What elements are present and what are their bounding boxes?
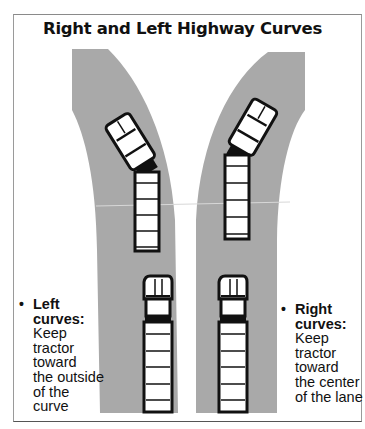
right-straight-truck xyxy=(219,276,247,412)
caption-heading: curves: xyxy=(295,317,365,332)
right-curves-caption: • Right curves: Keep tractor toward the … xyxy=(295,302,365,404)
caption-line: the center xyxy=(295,375,365,390)
caption-line: of the lane xyxy=(295,390,365,405)
caption-line: the outside xyxy=(33,370,113,385)
bullet-icon: • xyxy=(281,302,286,317)
caption-heading: curves: xyxy=(33,312,113,327)
caption-line: tractor xyxy=(295,346,365,361)
bullet-icon: • xyxy=(19,297,24,312)
caption-line: Keep xyxy=(33,326,113,341)
caption-line: toward xyxy=(295,360,365,375)
caption-line: tractor xyxy=(33,341,113,356)
left-curves-caption: • Left curves: Keep tractor toward the o… xyxy=(33,297,113,414)
left-straight-truck xyxy=(144,276,172,412)
caption-line: toward xyxy=(33,355,113,370)
caption-line: curve xyxy=(33,399,113,414)
caption-heading: Right xyxy=(295,302,365,317)
caption-line: Keep xyxy=(295,331,365,346)
caption-heading: Left xyxy=(33,297,113,312)
caption-line: of the xyxy=(33,385,113,400)
